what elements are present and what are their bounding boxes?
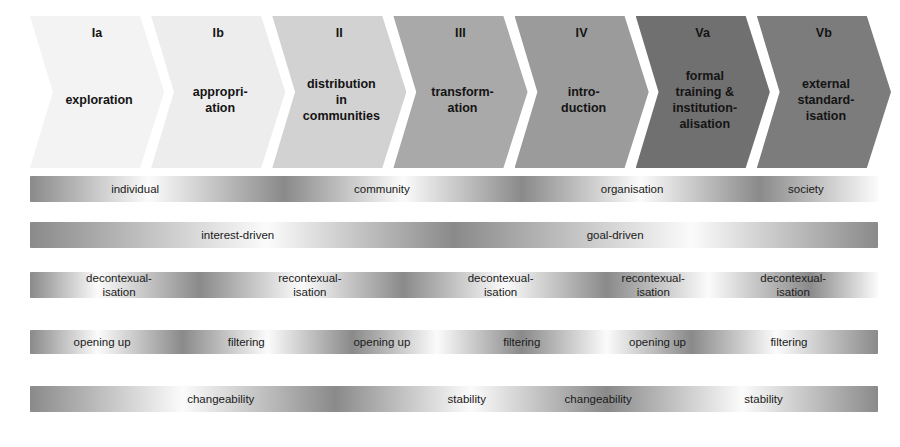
phase-roman-numeral: Vb <box>816 27 832 40</box>
phase-chevron-ii[interactable]: IIdistribution in communities <box>272 16 406 168</box>
phase-label: transform- ation <box>411 84 510 116</box>
phase-chevron-va[interactable]: Vaformal training & institution- alisati… <box>636 16 770 168</box>
phase-chevron-ia[interactable]: Iaexploration <box>30 16 164 168</box>
phase-label: distribution in communities <box>283 76 396 124</box>
phase-roman-numeral: II <box>336 27 343 40</box>
phase-roman-numeral: Ia <box>92 27 103 40</box>
phase-chevron-ib[interactable]: Ibappropri- ation <box>151 16 285 168</box>
dimension-bar-contextualisation <box>30 272 878 298</box>
phase-roman-numeral: III <box>455 27 466 40</box>
phase-roman-numeral: Ib <box>212 27 224 40</box>
phase-roman-numeral: Va <box>695 27 710 40</box>
phase-chevron-iii[interactable]: IIItransform- ation <box>393 16 527 168</box>
phase-label: external standard- isation <box>777 76 870 124</box>
dimension-bar-scope <box>30 176 878 202</box>
phase-label: appropri- ation <box>173 84 264 116</box>
phase-roman-numeral: IV <box>576 27 588 40</box>
phase-chevron-iv[interactable]: IVintro- duction <box>515 16 649 168</box>
phase-chevron-row: IaexplorationIbappropri- ationIIdistribu… <box>30 16 878 168</box>
phase-label: exploration <box>45 92 148 108</box>
phase-chevron-vb[interactable]: Vbexternal standard- isation <box>757 16 891 168</box>
diagram-canvas: IaexplorationIbappropri- ationIIdistribu… <box>0 0 900 447</box>
phase-label: formal training & institution- alisation <box>652 68 753 132</box>
dimension-bar-motivation <box>30 222 878 248</box>
phase-label: intro- duction <box>541 84 622 116</box>
dimension-bar-stability <box>30 386 878 412</box>
dimension-bar-scoping <box>30 330 878 354</box>
